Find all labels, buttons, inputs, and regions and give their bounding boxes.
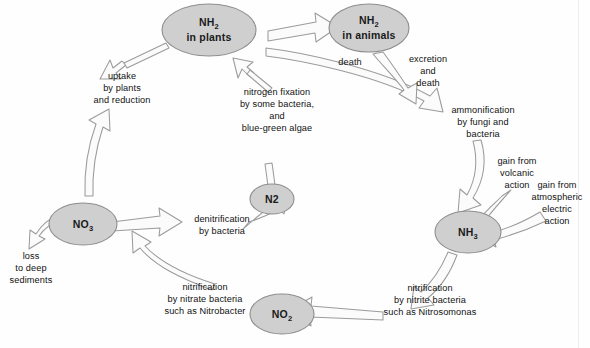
caption-ammonification-line1: ammonification — [451, 105, 514, 115]
caption-ammonification-line3: bacteria — [466, 129, 500, 139]
caption-nitrogen-fixation-line1: nitrogen fixation — [244, 87, 311, 97]
caption-gain-atmospheric-line2: atmospheric — [531, 192, 582, 202]
caption-ammonification-line2: by fungi and — [457, 117, 508, 127]
caption-nitrification-nitrate-line2: by nitrate bacteria — [168, 294, 244, 304]
node-nh2-in-animals — [329, 4, 409, 52]
caption-gain-atmospheric-line3: electric — [542, 204, 572, 214]
caption-uptake-line2: by plants — [103, 83, 141, 93]
caption-denitrification-line2: by bacteria — [199, 226, 246, 236]
node-nh2-in-animals-sublabel: in animals — [342, 29, 395, 41]
caption-death: death — [338, 57, 362, 67]
caption-gain-atmospheric-line1: gain from — [537, 180, 576, 190]
arrow-uptake-shaft — [124, 43, 169, 68]
caption-excretion-line3: death — [416, 78, 440, 88]
caption-gain-atmospheric-line4: action — [544, 216, 569, 226]
caption-gain-volcanic-line3: action — [504, 180, 529, 190]
caption-nitrogen-fixation-line4: blue-green algae — [242, 123, 313, 133]
caption-loss-line3: sediments — [10, 275, 53, 285]
caption-loss-line1: loss — [23, 251, 40, 261]
caption-denitrification-line1: denitrification — [194, 214, 250, 224]
caption-gain-volcanic-line2: volcanic — [500, 168, 534, 178]
caption-uptake-line1: uptake — [108, 71, 136, 81]
node-nh2-in-plants-sublabel: in plants — [187, 31, 232, 43]
caption-gain-volcanic-line1: gain from — [497, 156, 536, 166]
caption-nitrification-nitrate-line1: nitrification — [182, 282, 227, 292]
caption-nitrogen-fixation-line2: by some bacteria, — [240, 99, 314, 109]
caption-nitrification-nitrite-line2: by nitrite bacteria — [394, 295, 467, 305]
caption-excretion-line1: excretion — [409, 54, 447, 64]
arrow-no3-to-plants-uptake — [85, 109, 110, 196]
node-n2-formula: N2 — [265, 193, 279, 205]
caption-nitrification-nitrite-line1: nitrification — [407, 283, 452, 293]
nitrogen-cycle-diagram: NH2 in plants NH2 in animals NH3 NO2 NO3… — [0, 0, 590, 348]
arrow-no3-to-denitrification — [112, 208, 182, 236]
node-nh2-in-plants — [162, 4, 256, 56]
caption-nitrification-nitrite-line3: such as Nitrosomonas — [384, 307, 477, 317]
caption-excretion-line2: and — [420, 66, 436, 76]
arrow-plants-to-animals — [268, 13, 338, 42]
caption-loss-line2: to deep — [15, 263, 46, 273]
caption-nitrogen-fixation-line3: and — [269, 111, 285, 121]
caption-nitrification-nitrate-line3: such as Nitrobacter — [164, 306, 245, 316]
arrow-n2-to-nitrogen-fixation — [265, 163, 275, 186]
arrow-ammonification-to-nh3 — [458, 140, 484, 213]
caption-uptake-line3: and reduction — [94, 95, 151, 105]
